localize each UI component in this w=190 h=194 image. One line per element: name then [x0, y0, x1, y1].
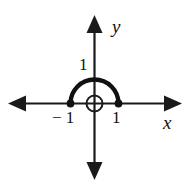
y-axis-up-arrow-icon: [87, 15, 103, 33]
x-axis-right-arrow-icon: [164, 96, 182, 112]
y-axis-label: y: [112, 17, 120, 36]
y-axis-down-arrow-icon: [87, 162, 103, 180]
x-axis-left-arrow-icon: [8, 96, 26, 112]
x-axis-label: x: [163, 113, 171, 132]
y-tick-label-one: 1: [79, 56, 88, 73]
x-tick-label-negative-one: − 1: [52, 109, 74, 126]
coordinate-plane-svg: [0, 0, 190, 194]
endpoint-dot-negative-one: [67, 100, 75, 108]
x-tick-label-one: 1: [112, 109, 121, 126]
endpoint-dot-positive-one: [115, 100, 123, 108]
math-figure: y x 1 − 1 1: [0, 0, 190, 194]
